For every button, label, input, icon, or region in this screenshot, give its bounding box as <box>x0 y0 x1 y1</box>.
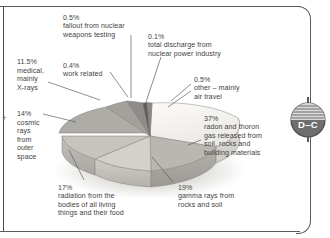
badge-label: D–C <box>298 119 318 130</box>
label-radon-thoron: 37% radon and thoron gas released from s… <box>204 115 262 157</box>
section-badge: D–C <box>289 97 327 142</box>
leader-other <box>171 84 191 101</box>
leader-medical <box>48 82 100 100</box>
label-body-radiation: 17% radiation from the bodies of all liv… <box>58 184 124 218</box>
label-cosmic-rays: 14% cosmic rays from outer space <box>17 110 40 162</box>
label-other-air-travel: 0.5% other – mainly air travel <box>194 76 240 101</box>
leader-nuclear <box>146 57 161 102</box>
label-gamma-rays: 19% gamma rays from rocks and soil <box>178 184 234 209</box>
leader-cosmic <box>43 114 76 122</box>
badge-stripes-icon <box>291 103 325 120</box>
label-nuclear-power: 0.1% total discharge from nuclear power … <box>148 33 221 58</box>
leader-work <box>110 72 128 97</box>
label-work-related: 0.4% work related <box>63 62 103 79</box>
label-medical-xrays: 11.5% medical, mainly X-rays <box>17 58 44 92</box>
label-fallout: 0.5% fallout from nuclear weapons testin… <box>63 14 125 39</box>
